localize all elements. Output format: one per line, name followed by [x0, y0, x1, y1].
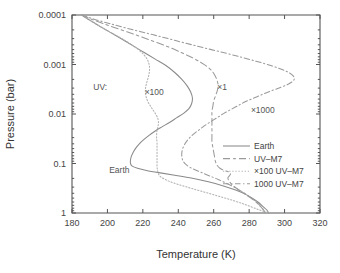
x-tick-label: 200: [100, 218, 115, 228]
y-tick-label: 0.0001: [38, 10, 66, 20]
y-axis-title: Pressure (bar): [4, 79, 16, 149]
x-tick-label: 280: [242, 218, 257, 228]
annotation-label: Earth: [109, 165, 130, 175]
legend-label: Earth: [254, 141, 275, 151]
x-tick-label: 240: [171, 218, 186, 228]
y-tick-label: 1: [61, 208, 66, 218]
annotation-label: UV:: [93, 82, 107, 92]
x-tick-label: 180: [64, 218, 79, 228]
annotation-label: ×100: [145, 87, 164, 97]
plot-annotations: UV:×100×1×1000Earth: [93, 82, 275, 175]
x-tick-label: 320: [312, 218, 327, 228]
x-tick-label: 260: [206, 218, 221, 228]
legend-label: UV–M7: [254, 154, 283, 164]
legend: EarthUV–M7×100 UV–M71000 UV–M7: [223, 141, 304, 189]
temperature-pressure-plot: 1802002202402602803003200.00010.0010.010…: [0, 0, 340, 273]
chart-figure: 1802002202402602803003200.00010.0010.010…: [0, 0, 340, 273]
x-axis-title: Temperature (K): [156, 248, 235, 260]
curve-dotted: [82, 15, 269, 213]
y-tick-label: 0.001: [43, 60, 66, 70]
annotation-label: ×1000: [251, 105, 275, 115]
annotation-label: ×1: [217, 82, 227, 92]
x-tick-label: 220: [135, 218, 150, 228]
y-tick-label: 0.01: [48, 109, 66, 119]
x-tick-label: 300: [277, 218, 292, 228]
legend-label: 1000 UV–M7: [254, 179, 304, 189]
legend-label: ×100 UV–M7: [254, 166, 304, 176]
y-tick-label: 0.1: [53, 159, 66, 169]
